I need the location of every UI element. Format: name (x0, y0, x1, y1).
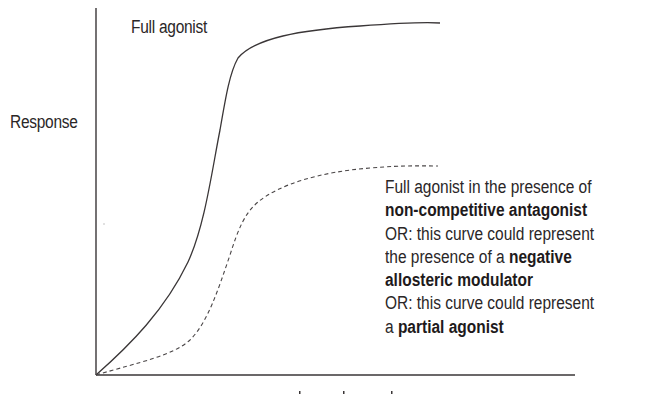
annotation-line-4: the presence of a negative (385, 246, 594, 269)
annotation-line-7-text: a (385, 317, 398, 337)
annotation-line-7: a partial agonist (385, 316, 594, 339)
annotation-line-6: OR: this curve could represent (385, 292, 594, 315)
full-agonist-label: Full agonist (131, 17, 207, 38)
speck (103, 223, 105, 225)
annotation-line-7-bold: partial agonist (398, 317, 504, 337)
annotation-line-4-text: the presence of a (385, 247, 509, 267)
annotation-line-5: allosteric modulator (385, 269, 594, 292)
annotation-line-3: OR: this curve could represent (385, 223, 594, 246)
annotation-line-4-bold: negative (509, 247, 572, 267)
y-axis-label: Response (10, 112, 78, 133)
annotation-line-2: non-competitive antagonist (385, 199, 594, 222)
annotation-line-1: Full agonist in the presence of (385, 176, 594, 199)
dashed-curve-annotation: Full agonist in the presence of non-comp… (385, 176, 594, 339)
